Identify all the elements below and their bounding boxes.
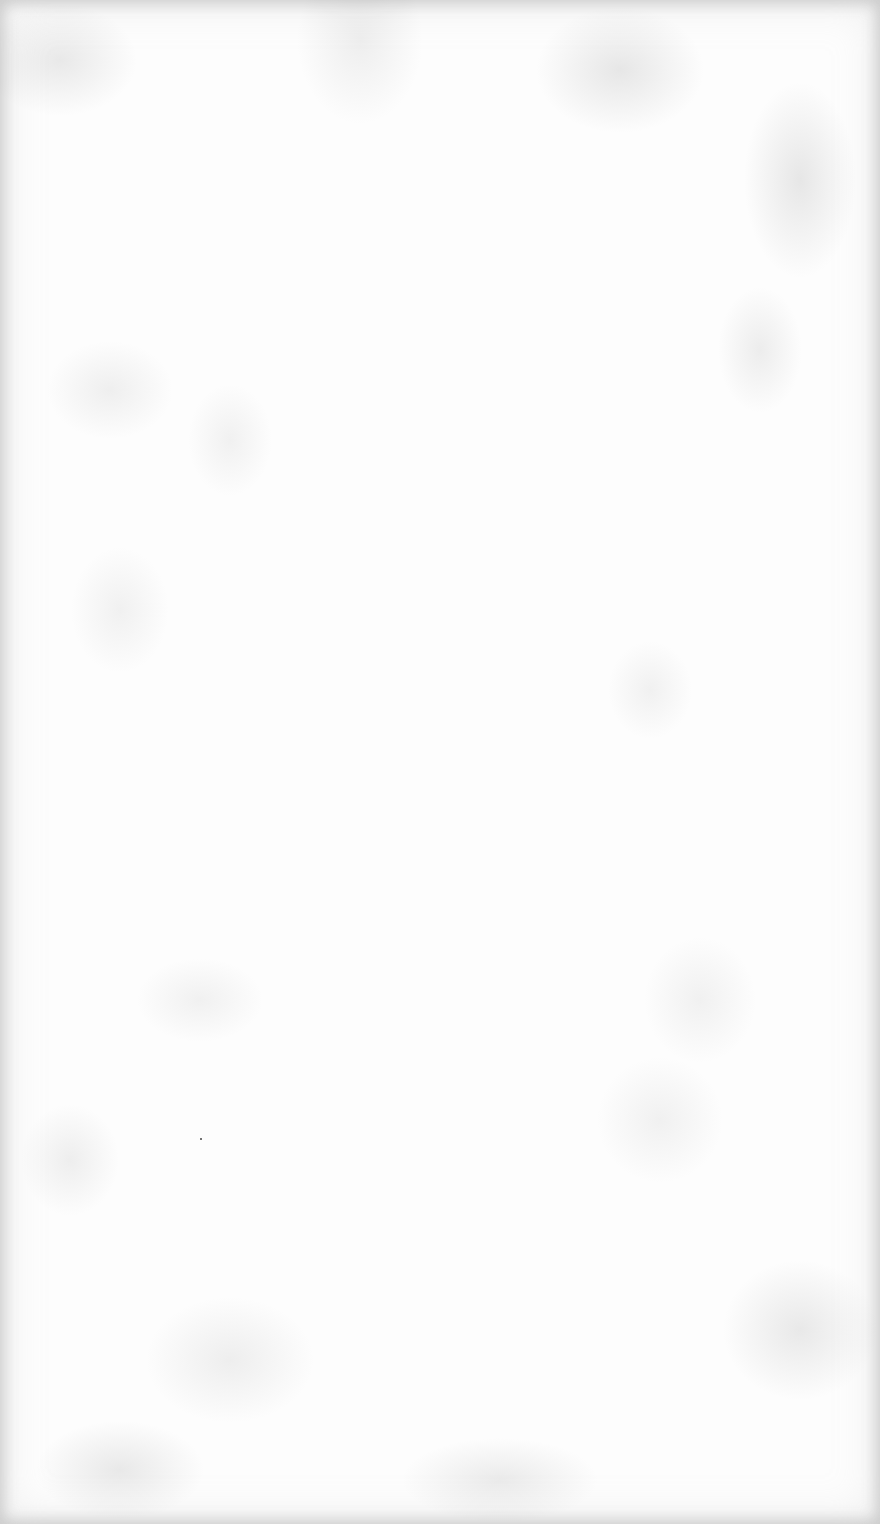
paper-speck xyxy=(200,1138,202,1140)
blank-paper-page xyxy=(0,0,880,1524)
paper-texture xyxy=(0,0,880,1524)
